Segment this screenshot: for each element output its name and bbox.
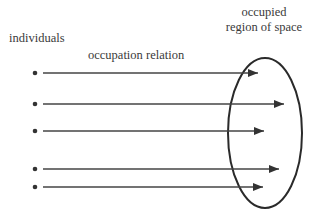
individual-dot	[33, 167, 38, 172]
individual-dot	[33, 185, 38, 190]
individual-dot	[33, 129, 38, 134]
individual-dot	[33, 71, 38, 76]
occupied-region-ellipse	[228, 58, 302, 208]
occupation-diagram	[0, 0, 312, 214]
individual-dot	[33, 102, 38, 107]
arrows-group	[33, 71, 284, 190]
